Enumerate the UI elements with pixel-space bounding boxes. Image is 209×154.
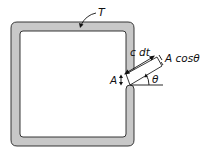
enclosure-diagram: T c dt A cosθ A θ	[0, 0, 209, 154]
aperture-arrow	[119, 75, 123, 86]
label-a-cos-theta: A cosθ	[164, 52, 200, 64]
label-wall-t: T	[98, 6, 106, 19]
label-c-dt: c dt	[130, 46, 151, 58]
label-aperture-a: A	[109, 74, 117, 86]
label-theta: θ	[152, 73, 159, 85]
